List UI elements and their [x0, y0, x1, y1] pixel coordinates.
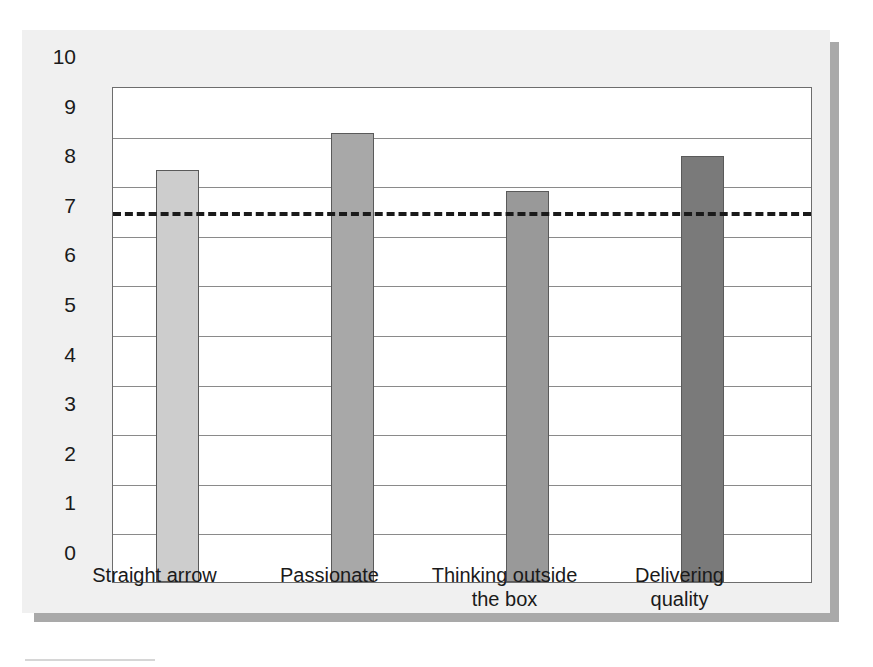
- bar: [156, 170, 199, 582]
- plot-area: [112, 87, 812, 583]
- reference-line: [113, 212, 811, 216]
- card-shadow-right: [830, 42, 839, 620]
- x-axis-category-label: Delivering quality: [572, 563, 787, 612]
- gridline: [113, 138, 811, 139]
- bar: [331, 133, 374, 582]
- card-shadow-bottom: [34, 613, 839, 622]
- bar: [506, 191, 549, 582]
- bottom-rule: [25, 659, 155, 661]
- chart-card: [22, 30, 830, 613]
- bar: [681, 156, 724, 582]
